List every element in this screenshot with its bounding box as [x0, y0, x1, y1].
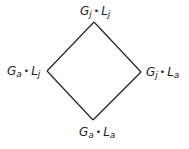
edge-right-bottom [93, 72, 141, 120]
node-label-left: Ga•Lj [7, 65, 40, 80]
bullet-operator: • [160, 67, 165, 77]
node-label-bottom: Ga•La [79, 126, 115, 141]
g-subscript: a [16, 69, 22, 79]
bullet-operator: • [94, 6, 99, 16]
l-symbol: L [167, 65, 174, 79]
l-subscript: a [174, 70, 180, 80]
g-subscript: j [155, 70, 158, 80]
bullet-operator: • [24, 66, 29, 76]
g-subscript: j [89, 9, 92, 19]
l-symbol: L [31, 64, 38, 78]
edge-top-right [94, 22, 141, 72]
g-symbol: G [146, 65, 155, 79]
l-symbol: L [101, 4, 108, 18]
edge-top-left [47, 22, 94, 71]
g-symbol: G [79, 125, 88, 139]
l-subscript: a [110, 130, 116, 140]
g-symbol: G [7, 64, 16, 78]
bullet-operator: • [96, 127, 101, 137]
edge-left-bottom [47, 71, 93, 120]
g-subscript: a [88, 130, 94, 140]
l-symbol: L [103, 125, 110, 139]
node-label-top: Gj•Lj [80, 5, 110, 20]
g-symbol: G [80, 4, 89, 18]
node-label-right: Gj•La [146, 66, 179, 81]
l-subscript: j [38, 69, 41, 79]
l-subscript: j [108, 9, 111, 19]
